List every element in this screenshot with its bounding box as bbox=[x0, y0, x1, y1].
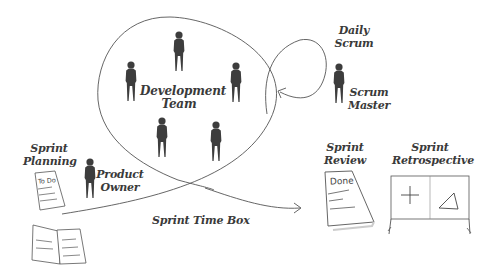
scrum-master-figure bbox=[334, 63, 345, 103]
sprint-retrospective-label: Sprint Retrospective bbox=[392, 141, 468, 167]
sprint-loop-curve bbox=[62, 17, 277, 214]
team-member-figure bbox=[126, 61, 137, 101]
todo-text: To Do bbox=[38, 176, 57, 186]
sprint-review-label: Sprint Review bbox=[323, 141, 367, 167]
product-backlog-icon bbox=[32, 225, 86, 264]
scrum-master-label: Scrum Master bbox=[346, 86, 392, 112]
diagram-canvas bbox=[0, 0, 488, 279]
product-owner-label: Product Owner bbox=[96, 168, 144, 194]
team-member-figure bbox=[231, 62, 242, 102]
sprint-time-box-arrow bbox=[205, 188, 300, 208]
product-owner-figure bbox=[85, 158, 96, 198]
team-member-figure bbox=[211, 121, 222, 161]
done-text: Done bbox=[330, 176, 354, 187]
development-team-label: Development Team bbox=[140, 85, 218, 111]
sprint-planning-label: Sprint Planning bbox=[23, 142, 75, 168]
team-member-figure bbox=[174, 31, 185, 71]
retrospective-board-icon bbox=[388, 176, 471, 234]
daily-scrum-loop bbox=[266, 39, 327, 114]
daily-scrum-label: Daily Scrum bbox=[332, 24, 376, 50]
sprint-time-box-label: Sprint Time Box bbox=[152, 214, 242, 227]
team-member-figure bbox=[157, 117, 168, 157]
